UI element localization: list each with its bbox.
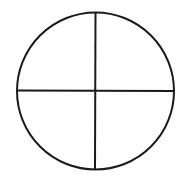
horizontal-divider-line (17, 91, 173, 92)
quadrant-circle-diagram (0, 0, 187, 179)
